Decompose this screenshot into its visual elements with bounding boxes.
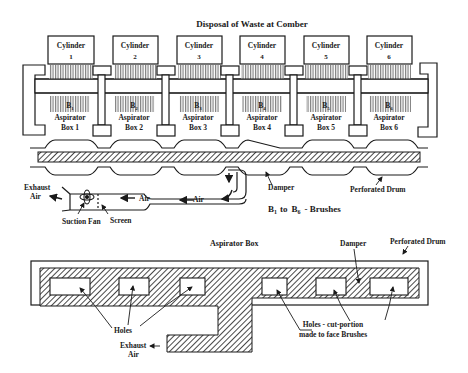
upper-brush-3 — [178, 65, 221, 79]
cylinder-1-number: 1 — [69, 53, 73, 61]
upper-brush-1 — [49, 65, 93, 79]
exhaust-air-bottom-line1: Exhaust — [120, 341, 147, 350]
cylinder-2-label: Cylinder — [121, 41, 150, 50]
upper-brush-5 — [305, 65, 348, 79]
perforated-drum-label-top: Perforated Drum — [350, 185, 406, 194]
perforated-drum-label-bottom: Perforated Drum — [390, 237, 446, 246]
hole-6 — [370, 278, 408, 295]
upper-brush-6 — [368, 65, 411, 79]
aspirator-box-title: Aspirator Box — [210, 239, 259, 248]
aspirator-box-4-line2: Box 4 — [253, 123, 271, 132]
aspirator-box-2-line1: Aspirator — [118, 113, 150, 122]
suction-fan-icon — [80, 190, 94, 204]
comber-waste-disposal-diagram: Disposal of Waste at Comber Cylinder 1 B… — [0, 0, 468, 373]
aspirator-box-2-line2: Box 2 — [125, 123, 143, 132]
diagram-title: Disposal of Waste at Comber — [196, 19, 307, 29]
suction-fan-label: Suction Fan — [62, 217, 101, 226]
screen-label: Screen — [110, 216, 132, 225]
upper-brush-4 — [241, 65, 284, 79]
exhaust-air-label-line2: Air — [30, 192, 42, 201]
hole-5 — [316, 278, 346, 295]
aspirator-box-1-line2: Box 1 — [61, 123, 79, 132]
upper-brush-2 — [114, 65, 157, 79]
aspirator-box-3-line1: Aspirator — [182, 113, 214, 122]
cylinder-5-label: Cylinder — [312, 41, 341, 50]
holes-label: Holes — [114, 326, 132, 335]
aspirator-box-5-line2: Box 5 — [317, 123, 335, 132]
holes-cut-portion-line2: made to face Brushes — [299, 330, 367, 339]
damper-bar — [38, 152, 420, 162]
aspirator-box-3-line2: Box 3 — [189, 123, 207, 132]
aspirator-box-5-line1: Aspirator — [310, 113, 342, 122]
cylinder-6-number: 6 — [387, 53, 391, 61]
aspirator-box-4-line1: Aspirator — [246, 113, 278, 122]
exhaust-air-bottom-line2: Air — [128, 350, 140, 359]
holes-cut-portion-line1: Holes - cut-portion — [303, 320, 364, 329]
damper-label-top: Damper — [268, 183, 295, 192]
hole-2 — [119, 278, 149, 295]
air-label-1: Air — [139, 194, 151, 203]
air-duct — [62, 170, 246, 211]
damper-cross-section — [40, 268, 419, 352]
aspirator-box-1-line1: Aspirator — [54, 113, 86, 122]
cylinder-6-label: Cylinder — [375, 41, 404, 50]
brushes-legend: B1toB6- Brushes — [268, 204, 341, 215]
aspirator-box-6-line1: Aspirator — [373, 113, 405, 122]
cylinder-4-label: Cylinder — [248, 41, 277, 50]
hole-4 — [262, 278, 287, 295]
cylinder-3-label: Cylinder — [185, 41, 214, 50]
exhaust-air-label-line1: Exhaust — [24, 183, 51, 192]
air-label-2: Air — [193, 195, 205, 204]
damper-label-bottom: Damper — [340, 239, 367, 248]
cylinder-2-number: 2 — [133, 53, 137, 61]
aspirator-box-6-line2: Box 6 — [380, 123, 398, 132]
cylinder-3-number: 3 — [197, 53, 201, 61]
cylinder-4-number: 4 — [260, 53, 264, 61]
cylinder-1-label: Cylinder — [57, 41, 86, 50]
cylinder-5-number: 5 — [324, 53, 328, 61]
